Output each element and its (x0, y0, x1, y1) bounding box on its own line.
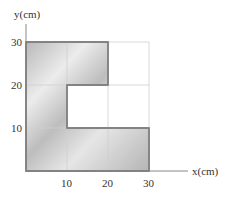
y-axis-label: y(cm) (14, 8, 41, 21)
y-tick-30: 30 (11, 36, 23, 48)
shaded-plate (26, 42, 149, 171)
x-tick-10: 10 (61, 177, 73, 189)
y-tick-10: 10 (11, 122, 23, 134)
x-tick-30: 30 (143, 177, 155, 189)
x-axis-label: x(cm) (192, 165, 219, 178)
lamina-diagram: y(cm) x(cm) 30 20 10 10 20 30 (0, 0, 230, 197)
y-tick-20: 20 (11, 79, 23, 91)
x-tick-20: 20 (102, 177, 114, 189)
